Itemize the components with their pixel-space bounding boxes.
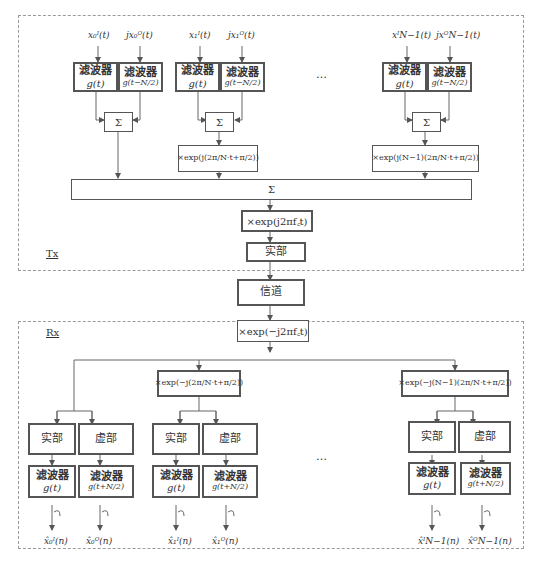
tx-sum-0: Σ [104,112,133,132]
tx-modulator-n: ×exp(j(N−1)(2π/N·t+π/2)) [372,145,479,172]
rx-filter-q-n: 滤波器 g(t+N/2) [460,462,511,495]
rx-filter-q-1: 滤波器 g(t+N/2) [202,465,258,498]
channel-block: 信道 [237,279,305,306]
rx-demodulator-1: ×exp(−j(2π/N·t+π/2)) [157,370,241,397]
rx-filter-i-n: 滤波器 g(t) [408,462,456,495]
tx-filter-q-1: 滤波器 g(t−N/2) [220,62,265,92]
tx-filter-i-1: 滤波器 g(t) [175,62,220,92]
rx-output-i-1: x̂₁ᴵ(n) [168,536,192,546]
rx-label: Rx [46,327,59,338]
tx-filter-q-n: 滤波器 g(t−N/2) [427,62,472,92]
rx-output-i-0: x̂₀ᴵ(n) [44,536,68,546]
rx-imag-n: 虚部 [458,421,511,453]
tx-carrier-mixer: ×exp(j2πf꜀t) [241,210,313,232]
tx-sum-all: Σ [71,179,472,200]
tx-input-q-n: jxᴼN−1(t) [436,30,480,40]
rx-filter-i-0: 滤波器 g(t) [28,465,76,498]
tx-real-part: 实部 [246,242,306,262]
tx-filter-i-n: 滤波器 g(t) [382,62,427,92]
rx-imag-1: 虚部 [202,423,258,455]
tx-sum-1: Σ [205,112,234,132]
rx-output-i-n: x̂ᴵN−1(n) [418,536,459,546]
tx-filter-q-0: 滤波器 g(t−N/2) [118,62,163,92]
rx-real-n: 实部 [408,421,456,453]
rx-filter-q-0: 滤波器 g(t+N/2) [78,465,134,498]
rx-filter-i-1: 滤波器 g(t) [152,465,200,498]
rx-demodulator-n: ×exp(−j(N−1)(2π/N·t+π/2)) [401,370,509,397]
tx-input-q-1: jx₁ᴼ(t) [228,30,255,40]
rx-output-q-1: x̂₁ᴼ(n) [212,536,238,546]
rx-output-q-n: x̂ᴼN−1(n) [468,536,512,546]
tx-label: Tx [46,248,58,259]
tx-input-i-1: x₁ᴵ(t) [189,30,211,40]
rx-ellipsis: … [316,450,327,463]
tx-input-i-n: xᴵN−1(t) [392,30,431,40]
tx-filter-i-0: 滤波器 g(t) [73,62,118,92]
tx-region [18,15,524,271]
rx-real-1: 实部 [152,423,200,455]
tx-input-i-0: x₀ᴵ(t) [88,30,110,40]
tx-input-q-0: jx₀ᴼ(t) [126,30,153,40]
tx-sum-n: Σ [412,112,441,132]
rx-real-0: 实部 [28,423,76,455]
rx-imag-0: 虚部 [78,423,134,455]
tx-modulator-1: ×exp(j(2π/N·t+π/2)) [178,145,258,172]
tx-ellipsis: … [316,68,327,81]
rx-output-q-0: x̂₀ᴼ(n) [86,536,112,546]
rx-carrier-mixer: ×exp(−j2πf꜀t) [237,320,309,342]
